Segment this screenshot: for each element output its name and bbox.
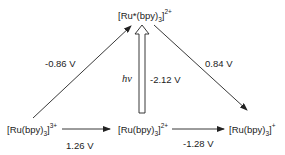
light-label: hν — [122, 74, 132, 85]
species-oxidized: [Ru(bpy)3]3+ — [7, 124, 57, 138]
potential-excited-to-oxidized: -0.86 V — [45, 59, 76, 69]
arrow-oxidized-to-excited — [33, 26, 131, 118]
species-excited: [Ru*(bpy)3]2+ — [118, 10, 172, 24]
potential-excited-to-reduced: 0.84 V — [205, 59, 232, 69]
arrow-excited-to-reduced — [154, 25, 247, 110]
hollow-excitation-arrow — [135, 25, 149, 113]
species-ground: [Ru(bpy)3]2+ — [118, 124, 168, 138]
species-reduced: [Ru(bpy)3]+ — [229, 124, 276, 138]
potential-ground-to-reduced: -1.28 V — [183, 139, 214, 149]
potential-excitation: -2.12 V — [150, 75, 181, 85]
potential-oxidized-to-ground: 1.26 V — [66, 141, 93, 151]
